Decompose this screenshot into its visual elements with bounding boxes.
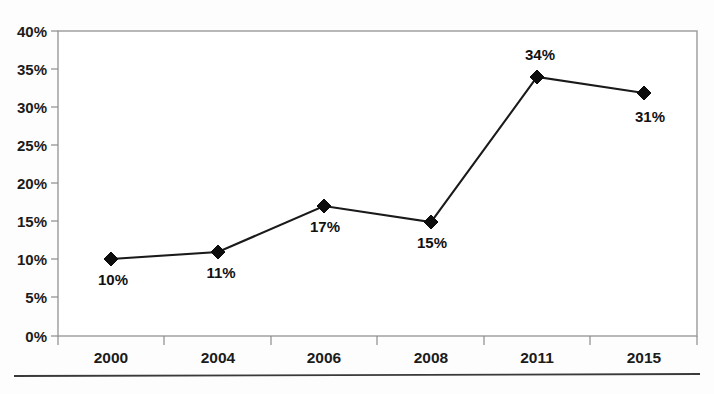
data-label: 34% — [525, 46, 555, 63]
y-tick-label: 0% — [25, 328, 47, 345]
plot-background — [58, 31, 697, 336]
data-label: 11% — [206, 264, 235, 281]
data-label: 31% — [635, 108, 665, 125]
chart-figure: 40% 35% 30% 25% 20% 15% 10% 5% 0% 2000 2… — [0, 0, 714, 394]
y-tick-label: 25% — [17, 137, 47, 154]
line-chart: 40% 35% 30% 25% 20% 15% 10% 5% 0% 2000 2… — [0, 0, 714, 394]
x-axis-ticks — [58, 336, 697, 345]
y-axis-labels: 40% 35% 30% 25% 20% 15% 10% 5% 0% — [17, 23, 47, 345]
x-tick-label: 2015 — [627, 349, 662, 366]
data-label: 10% — [98, 271, 128, 288]
y-axis-ticks — [51, 31, 58, 336]
y-tick-label: 30% — [17, 99, 47, 116]
x-tick-label: 2006 — [307, 349, 342, 366]
x-tick-label: 2008 — [414, 349, 449, 366]
y-tick-label: 20% — [17, 175, 47, 192]
y-tick-label: 10% — [17, 251, 47, 268]
x-tick-label: 2011 — [520, 349, 554, 366]
x-tick-label: 2000 — [94, 349, 128, 366]
data-label: 15% — [417, 234, 447, 251]
y-tick-label: 5% — [25, 289, 47, 306]
y-tick-label: 35% — [17, 61, 47, 78]
x-axis-labels: 2000 2004 2006 2008 2011 2015 — [94, 349, 662, 366]
data-label: 17% — [310, 218, 340, 235]
y-tick-label: 40% — [17, 23, 47, 40]
x-tick-label: 2004 — [201, 349, 236, 366]
bottom-divider-rule — [14, 374, 700, 376]
y-tick-label: 15% — [17, 213, 47, 230]
